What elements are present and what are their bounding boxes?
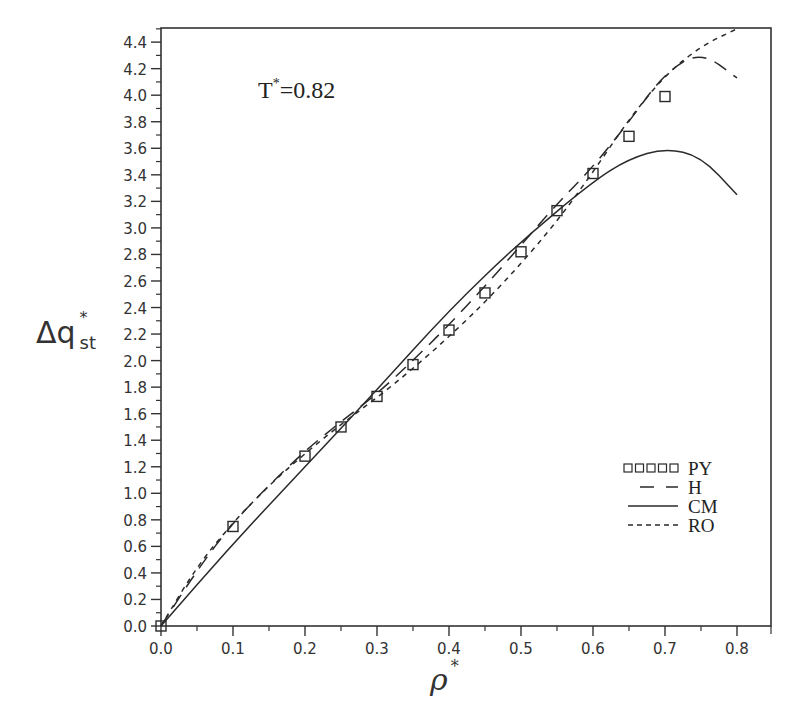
y-tick-label: 4.2	[123, 61, 147, 79]
series-cm-line	[161, 151, 737, 626]
legend-py-swatch	[659, 464, 667, 472]
y-tick-label: 0.2	[123, 591, 147, 609]
y-tick-label: 2.8	[123, 246, 147, 264]
y-tick-label: 4.0	[123, 87, 147, 105]
x-tick-label: 0.1	[221, 640, 245, 658]
series-h-line	[161, 57, 737, 626]
y-tick-label: 3.8	[123, 114, 147, 132]
x-tick-label: 0.7	[653, 640, 677, 658]
plot-frame	[161, 28, 771, 626]
y-tick-label: 0.6	[123, 538, 147, 556]
y-tick-label: 1.4	[123, 432, 147, 450]
series-layer	[156, 29, 737, 631]
y-tick-label: 0.4	[123, 565, 147, 583]
y-tick-label: 3.4	[123, 167, 147, 185]
y-tick-label: 3.0	[123, 220, 147, 238]
py-marker	[624, 131, 634, 141]
y-axis-label: Δq*st	[36, 308, 96, 353]
x-axis-label: ρ*	[429, 657, 459, 697]
legend-label: CM	[688, 496, 718, 517]
x-tick-label: 0.4	[437, 640, 461, 658]
y-tick-label: 2.4	[123, 300, 147, 318]
y-tick-label: 1.0	[123, 485, 147, 503]
y-tick-label: 3.2	[123, 193, 147, 211]
series-ro-line	[161, 29, 737, 626]
y-tick-label: 3.6	[123, 140, 147, 158]
x-tick-label: 0.2	[293, 640, 317, 658]
temperature-annotation: T*=0.82	[258, 76, 335, 103]
x-tick-label: 0.3	[365, 640, 389, 658]
y-tick-label: 2.0	[123, 353, 147, 371]
x-tick-label: 0.8	[725, 640, 749, 658]
legend: PYHCMRO	[624, 458, 718, 536]
legend-label: RO	[688, 515, 714, 536]
x-tick-label: 0.0	[149, 640, 173, 658]
legend-py-swatch	[670, 464, 678, 472]
chart: 0.00.20.40.60.81.01.21.41.61.82.02.22.42…	[0, 0, 792, 719]
py-marker	[444, 325, 454, 335]
py-marker	[660, 92, 670, 102]
plot-area	[161, 28, 771, 626]
y-tick-label: 0.0	[123, 618, 147, 636]
y-tick-label: 1.6	[123, 406, 147, 424]
legend-label: H	[688, 477, 702, 498]
legend-py-swatch	[624, 464, 632, 472]
py-marker	[516, 247, 526, 257]
y-tick-label: 1.8	[123, 379, 147, 397]
y-tick-label: 0.8	[123, 512, 147, 530]
x-axis: 0.00.10.20.30.40.50.60.70.8	[149, 626, 771, 658]
x-tick-label: 0.5	[509, 640, 533, 658]
legend-py-swatch	[647, 464, 655, 472]
y-tick-label: 2.6	[123, 273, 147, 291]
y-tick-label: 2.2	[123, 326, 147, 344]
legend-label: PY	[688, 458, 713, 479]
y-tick-label: 1.2	[123, 459, 147, 477]
legend-py-swatch	[636, 464, 644, 472]
y-axis: 0.00.20.40.60.81.01.21.41.61.82.02.22.42…	[123, 29, 161, 636]
x-tick-label: 0.6	[581, 640, 605, 658]
y-tick-label: 4.4	[123, 34, 147, 52]
